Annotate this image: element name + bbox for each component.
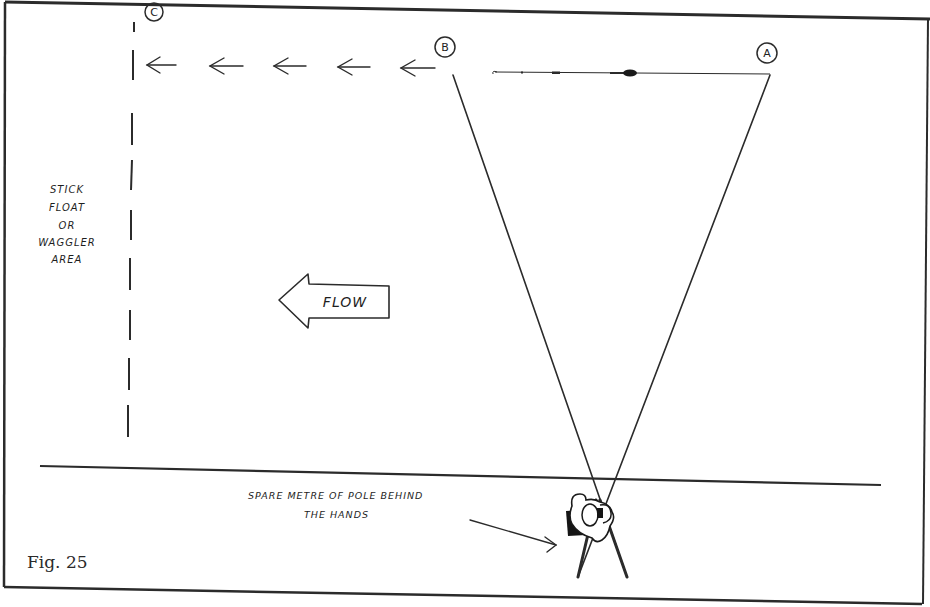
drift-arrow-icon bbox=[338, 59, 370, 75]
drift-arrow-icon bbox=[401, 60, 435, 76]
flow-arrow-icon: FLOW bbox=[279, 274, 389, 328]
drift-arrow-icon bbox=[147, 57, 176, 73]
zone-label-line-1: STICK bbox=[50, 184, 84, 195]
point-b-marker: B bbox=[435, 37, 455, 57]
pole-annotation: SPARE METRE OF POLE BEHIND THE HANDS bbox=[248, 490, 423, 520]
zone-label-line-2: FLOAT bbox=[49, 202, 85, 213]
point-c-marker: C bbox=[145, 3, 163, 21]
drift-arrow-icon bbox=[210, 58, 243, 74]
figure-frame bbox=[4, 2, 930, 604]
fishing-diagram: C B A bbox=[0, 0, 930, 607]
point-a-marker: A bbox=[757, 43, 777, 63]
zone-label-line-5: AREA bbox=[51, 254, 83, 265]
annotation-arrow bbox=[470, 520, 556, 552]
zone-label: STICK FLOAT OR WAGGLER AREA bbox=[38, 184, 96, 265]
annotation-line-2: THE HANDS bbox=[304, 509, 369, 520]
pole-to-a bbox=[578, 75, 770, 577]
pole-lines bbox=[453, 75, 770, 577]
zone-label-line-4: WAGGLER bbox=[38, 237, 96, 248]
flow-label: FLOW bbox=[323, 294, 367, 310]
figure-caption: Fig. 25 bbox=[27, 552, 88, 572]
annotation-line-1: SPARE METRE OF POLE BEHIND bbox=[248, 490, 423, 501]
drift-arrow-icon bbox=[274, 58, 306, 74]
zone-label-line-3: OR bbox=[59, 220, 76, 231]
zone-boundary-dashed-line bbox=[128, 22, 134, 437]
point-a-label: A bbox=[763, 47, 771, 60]
bank-line bbox=[40, 466, 881, 485]
drift-arrows bbox=[147, 57, 435, 76]
point-b-label: B bbox=[441, 41, 449, 54]
point-c-label: C bbox=[150, 6, 158, 19]
float-rig-icon bbox=[493, 70, 770, 77]
